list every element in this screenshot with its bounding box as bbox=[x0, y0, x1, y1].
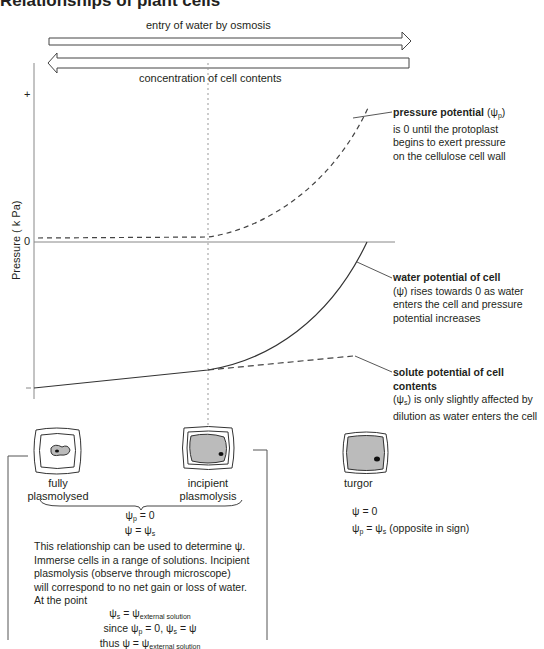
y-tick-zero: 0 bbox=[24, 235, 30, 247]
annotation-water-potential: water potential of cell (ψ) rises toward… bbox=[393, 271, 543, 325]
y-tick-plus: + bbox=[24, 88, 30, 100]
y-axis-label: Pressure ( k Pa) bbox=[10, 201, 22, 280]
equation-psi-equals-psi-s: ψ = ψs bbox=[100, 523, 180, 541]
solute-potential-curve bbox=[208, 356, 353, 370]
annotation-pressure-potential: pressure potential (ψp) is 0 until the p… bbox=[393, 106, 543, 163]
arrow-right-icon bbox=[49, 32, 411, 50]
arrow-label-entry: entry of water by osmosis bbox=[146, 19, 271, 31]
explanation-paragraph: This relationship can be used to determi… bbox=[34, 540, 269, 608]
arrow-label-concentration: concentration of cell contents bbox=[139, 72, 281, 84]
equation-turgor-psi-zero: ψ = 0 bbox=[352, 504, 377, 519]
pressure-potential-curve bbox=[38, 108, 368, 238]
fully-plasmolysed-cell-icon bbox=[34, 428, 81, 474]
left-bracket bbox=[8, 456, 28, 640]
annotation-solute-potential: solute potential of cell contents (ψs) i… bbox=[393, 366, 544, 423]
arrow-left-icon bbox=[48, 53, 409, 73]
label-incipient-plasmolysis: incipient plasmolysis bbox=[176, 477, 240, 503]
water-potential-curve bbox=[34, 242, 367, 388]
equation-thus: thus ψ = ψexternal solution bbox=[60, 636, 240, 649]
equation-turgor-psi-p: ψp = ψs (opposite in sign) bbox=[352, 521, 469, 539]
incipient-plasmolysis-cell-icon bbox=[183, 427, 235, 470]
turgor-cell-icon bbox=[343, 432, 388, 474]
label-turgor: turgor bbox=[344, 477, 373, 490]
label-fully-plasmolysed: fully plasmolysed bbox=[26, 477, 90, 503]
